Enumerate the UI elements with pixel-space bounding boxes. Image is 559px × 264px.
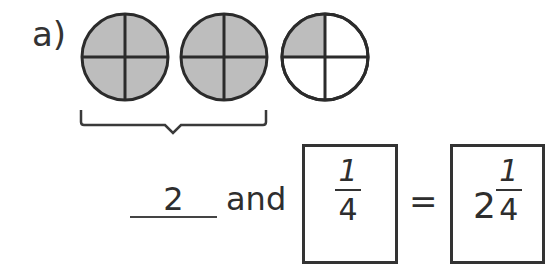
circle-1-whole: [82, 14, 168, 100]
mixed-denominator: 4: [499, 194, 518, 226]
fraction-denominator: 4: [338, 194, 357, 226]
fraction-bar: [335, 189, 361, 191]
fraction: 1 4: [335, 155, 361, 226]
mixed-numerator: 1: [499, 155, 518, 187]
fraction-circles-figure: [0, 0, 559, 140]
equals-sign: =: [409, 184, 438, 218]
mixed-number: 2 1 4: [473, 167, 522, 226]
fraction-answer-box[interactable]: 1 4: [302, 144, 398, 264]
whole-number-answer-blank[interactable]: 2: [130, 182, 217, 218]
circle-2-whole: [181, 14, 267, 100]
mixed-fraction: 1 4: [496, 155, 522, 226]
mixed-number-answer-box[interactable]: 2 1 4: [450, 144, 545, 264]
fraction-numerator: 1: [338, 155, 357, 187]
mixed-fraction-bar: [496, 189, 522, 191]
circle-3-one-quarter: [282, 14, 368, 100]
connector-text: and: [226, 182, 286, 216]
mixed-whole: 2: [473, 186, 496, 226]
brace-icon: [81, 110, 266, 133]
